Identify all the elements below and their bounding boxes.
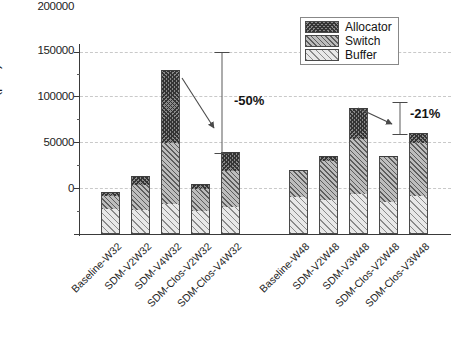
bracket-cap-bottom [393,134,408,135]
bar-baseline-w32[interactable] [101,192,120,234]
bracket-cap-top [215,52,230,53]
allocator-swatch-icon [305,21,339,33]
y-tick-150000 [74,96,80,97]
annotation-label-50: -50% [234,93,264,108]
legend-item-switch: Switch [305,35,392,47]
bar-segment-allocator [221,152,240,171]
bar-segment-switch [101,196,120,209]
bar-segment-buffer [101,209,120,234]
bar-segment-switch [319,161,338,200]
y-tick-minor-175000 [77,74,81,75]
area-breakdown-chart: Area (μm2) 200000 150000 100000 50000 0 … [0,0,461,352]
legend-item-allocator: Allocator [305,21,392,33]
y-tick-0 [74,234,80,235]
bar-segment-switch [131,185,150,209]
bar-segment-allocator [131,176,150,185]
y-tick-minor-75000 [77,165,81,166]
legend-item-buffer: Buffer [305,49,392,61]
bar-segment-switch [349,139,368,194]
bracket-cap-bottom [215,153,230,154]
annotation-label-21: -21% [410,106,440,121]
bar-segment-allocator [161,70,180,143]
y-tick-200000 [74,52,80,53]
y-tick-label-group: 200000 150000 100000 50000 0 [0,0,74,188]
bar-segment-switch [409,143,428,196]
bar-segment-switch [379,156,398,201]
bracket-cap-top [393,102,408,103]
y-tick-50000 [74,188,80,189]
bracket-stem [222,52,223,154]
bar-baseline-w48[interactable] [289,170,308,234]
y-tick-minor-25000 [77,211,81,212]
gridline-150000 [80,96,451,98]
legend-label-buffer: Buffer [345,49,377,61]
gridline-100000 [80,142,451,144]
legend-label-switch: Switch [345,35,380,47]
y-tick-label-100000: 100000 [37,90,74,102]
switch-swatch-icon [305,35,339,47]
bar-segment-allocator [349,108,368,139]
bar-segment-allocator [409,133,428,143]
y-tick-minor-125000 [77,119,81,120]
reduction-bracket-50 [214,52,230,154]
reduction-bracket-21 [392,102,408,135]
y-tick-100000 [74,142,80,143]
y-tick-label-50000: 50000 [44,136,74,148]
bar-segment-buffer [289,197,308,234]
y-tick-label-150000: 150000 [37,44,74,56]
legend: Allocator Switch Buffer [300,17,399,65]
buffer-swatch-icon [305,49,339,61]
y-tick-label-200000: 200000 [37,0,74,12]
bracket-stem [400,102,401,135]
legend-label-allocator: Allocator [345,21,392,33]
